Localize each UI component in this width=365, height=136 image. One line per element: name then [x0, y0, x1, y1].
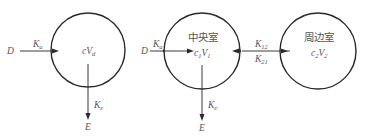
peripheral-compartment-label: c2V2	[311, 48, 328, 59]
compartment-model-diagram: D Ka cVd Ke E D Ka 中央室 c1V1 周边室 c2V	[0, 0, 365, 136]
peripheral-compartment-title: 周边室	[304, 31, 334, 43]
absorption-rate-label: Ka	[32, 39, 43, 50]
absorption-rate-label: Ka	[152, 39, 163, 50]
transfer-to-central-arrowhead-icon	[232, 49, 239, 54]
elimination-rate-label: Ke	[207, 100, 217, 111]
central-compartment-label: c1V1	[194, 48, 211, 59]
one-compartment-model: D Ka cVd Ke E	[6, 13, 125, 132]
elimination-output-label: E	[198, 123, 205, 133]
central-compartment-title: 中央室	[188, 31, 218, 43]
transfer-to-peripheral-arrowhead-icon	[281, 49, 288, 54]
transfer-rate-12-label: K12	[254, 39, 269, 50]
absorption-arrowhead-icon	[187, 49, 194, 54]
dose-label: D	[6, 46, 14, 56]
compartment-label: cVd	[82, 46, 96, 57]
elimination-arrowhead-icon	[200, 114, 205, 121]
elimination-rate-label: Ke	[93, 100, 103, 111]
elimination-arrowhead-icon	[86, 113, 91, 120]
two-compartment-model: D Ka 中央室 c1V1 周边室 c2V2 K12 K21 Ke E	[140, 13, 356, 133]
dose-label: D	[140, 46, 148, 56]
transfer-rate-21-label: K21	[254, 54, 268, 65]
absorption-arrowhead-icon	[52, 49, 59, 54]
central-exit-dot	[239, 50, 241, 52]
elimination-output-label: E	[84, 122, 91, 132]
entry-point-dot	[163, 50, 165, 52]
